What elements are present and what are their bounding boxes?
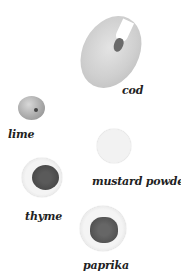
thyme-label: thyme bbox=[25, 210, 62, 223]
paprika-label: paprika bbox=[83, 259, 129, 272]
lime-image bbox=[18, 96, 45, 120]
mustard-powder-label: mustard powder bbox=[92, 175, 181, 188]
lime-spot bbox=[34, 108, 38, 112]
lime-label: lime bbox=[8, 128, 34, 141]
mustard-powder-dish-image bbox=[97, 129, 131, 163]
paprika-contents bbox=[90, 217, 118, 243]
thyme-contents bbox=[32, 165, 59, 190]
cod-label: cod bbox=[122, 84, 143, 97]
